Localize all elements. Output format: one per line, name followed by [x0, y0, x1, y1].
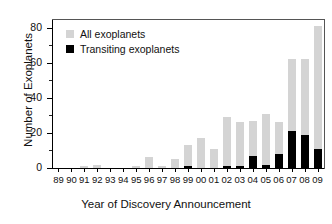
x-axis-title: Year of Discovery Announcement	[0, 198, 332, 210]
x-tick-91	[84, 168, 85, 172]
bar-transiting-04	[249, 156, 257, 168]
x-tick-96	[149, 168, 150, 172]
bar-01	[210, 19, 218, 168]
x-tick-92	[97, 168, 98, 172]
legend-item-transiting: Transiting exoplanets	[66, 43, 179, 55]
bar-all-05	[262, 114, 270, 168]
bar-transiting-05	[262, 165, 270, 169]
x-tick-89	[58, 168, 59, 172]
x-tick-label-09: 09	[310, 174, 326, 185]
y-tick-0	[47, 168, 52, 169]
x-tick-03	[240, 168, 241, 172]
y-tick-label-0: 0	[16, 161, 42, 173]
x-tick-05	[266, 168, 267, 172]
bar-06	[275, 19, 283, 168]
bar-all-97	[158, 166, 166, 168]
bar-99	[184, 19, 192, 168]
bar-all-01	[210, 149, 218, 168]
bar-02	[223, 19, 231, 168]
bar-all-00	[197, 138, 205, 168]
bar-04	[249, 19, 257, 168]
x-tick-06	[279, 168, 280, 172]
x-tick-95	[136, 168, 137, 172]
bar-08	[301, 19, 309, 168]
bar-transiting-09	[314, 149, 322, 168]
x-tick-09	[318, 168, 319, 172]
bar-03	[236, 19, 244, 168]
x-tick-93	[110, 168, 111, 172]
y-tick-label-20: 20	[16, 126, 42, 138]
x-tick-94	[123, 168, 124, 172]
x-tick-02	[227, 168, 228, 172]
x-tick-04	[253, 168, 254, 172]
x-tick-01	[214, 168, 215, 172]
bar-all-98	[171, 159, 179, 168]
bar-transiting-08	[301, 135, 309, 168]
bar-all-95	[132, 166, 140, 168]
legend-swatch-all	[66, 30, 74, 38]
x-tick-98	[175, 168, 176, 172]
bar-transiting-02	[223, 166, 231, 168]
bar-all-92	[93, 165, 101, 169]
bar-transiting-07	[288, 131, 296, 168]
plot-right-border	[324, 19, 325, 169]
x-tick-00	[201, 168, 202, 172]
bar-transiting-99	[184, 166, 192, 168]
bar-all-91	[80, 166, 88, 168]
y-tick-label-60: 60	[16, 56, 42, 68]
bar-all-96	[145, 157, 153, 168]
bar-all-99	[184, 145, 192, 168]
bar-all-03	[236, 122, 244, 168]
x-tick-07	[292, 168, 293, 172]
bar-09	[314, 19, 322, 168]
y-tick-label-40: 40	[16, 91, 42, 103]
x-tick-97	[162, 168, 163, 172]
legend-item-all: All exoplanets	[66, 28, 179, 40]
chart-container: Number of Exoplanets 020406080 899091929…	[0, 0, 332, 224]
bar-07	[288, 19, 296, 168]
legend-swatch-transiting	[66, 45, 74, 53]
bar-89	[54, 19, 62, 168]
y-tick-label-80: 80	[16, 21, 42, 33]
bar-05	[262, 19, 270, 168]
legend-label-transiting: Transiting exoplanets	[80, 43, 179, 55]
x-tick-99	[188, 168, 189, 172]
chart-legend: All exoplanets Transiting exoplanets	[66, 28, 179, 58]
bar-00	[197, 19, 205, 168]
x-tick-90	[71, 168, 72, 172]
legend-label-all: All exoplanets	[80, 28, 145, 40]
bar-transiting-03	[236, 166, 244, 168]
bar-transiting-06	[275, 154, 283, 168]
x-tick-08	[305, 168, 306, 172]
bar-all-02	[223, 117, 231, 168]
bar-all-09	[314, 26, 322, 168]
